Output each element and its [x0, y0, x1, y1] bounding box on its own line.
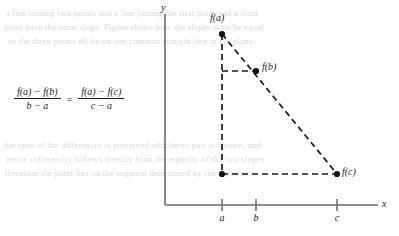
point-fa — [219, 31, 225, 37]
point-label-fb: f(b) — [262, 61, 276, 72]
point-fc — [334, 171, 340, 177]
point-label-fa: f(a) — [210, 12, 224, 23]
tick-label-c: c — [330, 212, 344, 223]
tick-label-b: b — [249, 212, 263, 223]
figure-canvas: a line joining two points and a line joi… — [0, 0, 399, 236]
y-axis-label: y — [161, 2, 165, 13]
tick-label-a: a — [215, 212, 229, 223]
point-corner — [219, 171, 225, 177]
point-fb — [253, 68, 259, 74]
coordinate-plot — [0, 0, 399, 236]
secant-line-dashed — [222, 34, 337, 174]
point-label-fc: f(c) — [342, 166, 356, 177]
x-axis-label: x — [382, 198, 386, 209]
